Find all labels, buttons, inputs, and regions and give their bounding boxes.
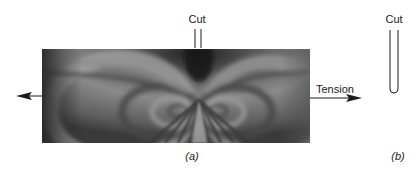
right-tension-arrow (310, 94, 362, 102)
cut-label-b: Cut (385, 13, 402, 25)
u-cut-sketch (390, 30, 398, 93)
photoelastic-photo (42, 38, 332, 162)
tension-label: Tension (316, 83, 354, 95)
figure: Cut Tension (a) Cut (b) (0, 0, 420, 173)
caption-a: (a) (185, 150, 199, 162)
caption-b: (b) (391, 150, 405, 162)
cut-label-a: Cut (188, 13, 205, 25)
left-tension-arrow (16, 92, 42, 100)
cut-marker-a (195, 29, 201, 48)
